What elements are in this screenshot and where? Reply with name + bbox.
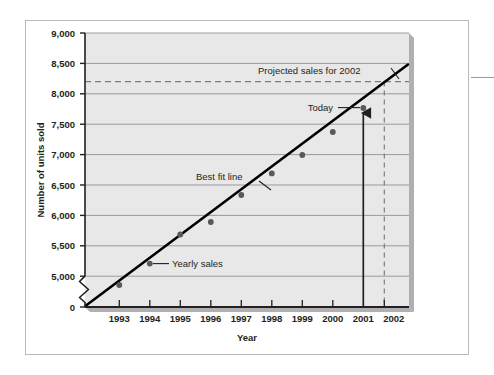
data-point-1999	[299, 152, 305, 158]
y-tick-label-6500: 6,500	[51, 180, 75, 191]
x-axis-title: Year	[237, 332, 257, 343]
x-tick-label-1997: 1997	[231, 313, 252, 324]
data-point-2000	[330, 129, 336, 135]
line-chart-svg: 9,000 8,500 8,000 7,500 7,000 6,500 6,00…	[0, 0, 494, 375]
x-tick-labels: 1993 1994 1995 1996 1997 1998 1999 2000 …	[109, 313, 405, 324]
data-point-1995	[177, 232, 183, 238]
x-tick-label-1999: 1999	[292, 313, 313, 324]
x-tick-label-1994: 1994	[139, 313, 161, 324]
x-tick-label-1995: 1995	[170, 313, 192, 324]
annotation-yearly-sales-label: Yearly sales	[172, 258, 223, 269]
y-axis-title: Number of units sold	[35, 122, 46, 217]
data-point-1997	[238, 192, 244, 198]
annotation-best-fit-label: Best fit line	[196, 171, 242, 182]
x-tick-label-2000: 2000	[322, 313, 343, 324]
annotation-today-label: Today	[308, 102, 334, 113]
data-point-2001-today	[360, 105, 366, 111]
y-tick-label-9000: 9,000	[51, 28, 75, 39]
x-tick-label-1993: 1993	[109, 313, 130, 324]
annotation-projected-sales-label: Projected sales for 2002	[258, 65, 360, 76]
y-tick-label-7000: 7,000	[51, 149, 75, 160]
y-tick-labels: 9,000 8,500 8,000 7,500 7,000 6,500 6,00…	[51, 28, 75, 313]
y-tick-label-5000: 5,000	[51, 271, 75, 282]
x-tick-label-2001: 2001	[353, 313, 375, 324]
y-tick-label-7500: 7,500	[51, 119, 75, 130]
y-tick-label-8500: 8,500	[51, 58, 75, 69]
data-point-1993	[116, 282, 122, 288]
x-tick-label-2002: 2002	[383, 313, 404, 324]
y-tick-label-0: 0	[70, 302, 75, 313]
y-tick-label-5500: 5,500	[51, 240, 75, 251]
data-point-1998	[269, 171, 275, 177]
data-point-1994	[147, 261, 153, 267]
panel-shadow-right	[409, 33, 414, 312]
figure-root: 9,000 8,500 8,000 7,500 7,000 6,500 6,00…	[0, 0, 494, 375]
chart-canvas: 9,000 8,500 8,000 7,500 7,000 6,500 6,00…	[0, 0, 494, 375]
y-tick-label-8000: 8,000	[51, 88, 75, 99]
x-tick-label-1998: 1998	[261, 313, 282, 324]
y-tick-label-6000: 6,000	[51, 210, 75, 221]
x-tick-label-1996: 1996	[200, 313, 221, 324]
data-point-1996	[208, 219, 214, 225]
